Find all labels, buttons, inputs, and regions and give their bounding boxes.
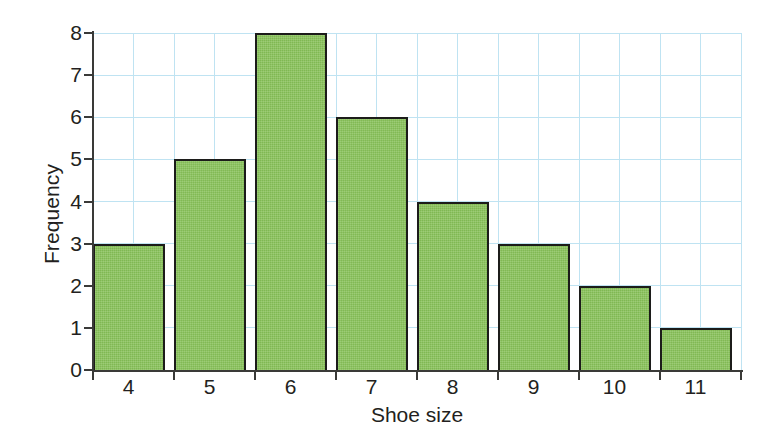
y-tick-mark [84, 32, 93, 34]
x-tick-mark [92, 371, 94, 380]
y-tick-mark [84, 116, 93, 118]
gridline-vertical [660, 33, 661, 370]
x-tick-label: 5 [180, 376, 240, 397]
y-tick-label: 6 [42, 106, 82, 127]
y-tick-mark [84, 285, 93, 287]
x-tick-mark [578, 371, 580, 380]
gridline-vertical [700, 33, 701, 370]
y-tick-label: 4 [42, 191, 82, 212]
y-tick-label: 0 [42, 359, 82, 380]
y-tick-mark [84, 74, 93, 76]
x-tick-mark [416, 371, 418, 380]
x-tick-label: 11 [666, 376, 726, 397]
x-tick-mark [659, 371, 661, 380]
bar-11 [660, 328, 732, 370]
histogram-chart: Frequency 012345678 4567891011 Shoe size [0, 0, 767, 443]
y-tick-label: 1 [42, 317, 82, 338]
y-tick-mark [84, 158, 93, 160]
bar-4 [93, 244, 165, 370]
bar-7 [336, 117, 408, 370]
y-tick-label: 8 [42, 22, 82, 43]
x-tick-label: 9 [504, 376, 564, 397]
y-tick-mark [84, 327, 93, 329]
x-tick-mark [335, 371, 337, 380]
x-tick-label: 6 [261, 376, 321, 397]
gridline-vertical [741, 33, 742, 370]
x-tick-label: 10 [585, 376, 645, 397]
bar-6 [255, 33, 327, 370]
y-tick-label: 3 [42, 233, 82, 254]
bar-10 [579, 286, 651, 370]
x-tick-mark [173, 371, 175, 380]
y-tick-label: 7 [42, 64, 82, 85]
x-tick-label: 8 [423, 376, 483, 397]
bar-5 [174, 159, 246, 370]
y-tick-mark [84, 243, 93, 245]
x-tick-mark [740, 371, 742, 380]
x-tick-mark [497, 371, 499, 380]
y-tick-mark [84, 201, 93, 203]
x-tick-label: 4 [99, 376, 159, 397]
bar-9 [498, 244, 570, 370]
x-axis-title: Shoe size [93, 403, 741, 427]
plot-area [93, 33, 741, 370]
bar-8 [417, 202, 489, 371]
x-tick-mark [254, 371, 256, 380]
y-tick-label: 2 [42, 275, 82, 296]
y-tick-label: 5 [42, 148, 82, 169]
x-tick-label: 7 [342, 376, 402, 397]
